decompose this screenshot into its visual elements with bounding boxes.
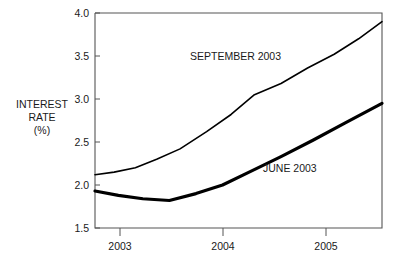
- data-series-group: [95, 22, 382, 201]
- x-tick-label-2003: 2003: [108, 240, 132, 252]
- series-label-september-2003: SEPTEMBER 2003: [190, 50, 281, 62]
- series-label-june-2003: JUNE 2003: [263, 162, 317, 174]
- y-axis-title-line-1: INTEREST: [16, 98, 69, 110]
- y-axis-title-line-3: (%): [34, 124, 50, 136]
- y-tick-label-2-0: 2.0: [74, 179, 89, 191]
- interest-rate-chart: 4.0 3.5 3.0 2.5 2.0 1.5 2003 2004 2005 I…: [0, 0, 396, 260]
- series-line-september-2003: [95, 22, 382, 175]
- y-tick-label-3-5: 3.5: [74, 50, 89, 62]
- x-axis-ticks: [120, 228, 326, 236]
- axis-frame-border: [95, 13, 382, 228]
- y-axis-tick-labels: 4.0 3.5 3.0 2.5 2.0 1.5: [74, 7, 89, 234]
- y-axis-ticks: [95, 13, 100, 228]
- y-tick-label-1-5: 1.5: [74, 222, 89, 234]
- plot-frame: [95, 13, 382, 228]
- y-tick-label-2-5: 2.5: [74, 136, 89, 148]
- series-line-june-2003: [95, 103, 382, 200]
- y-axis-title: INTEREST RATE (%): [16, 98, 69, 136]
- x-tick-label-2005: 2005: [314, 240, 338, 252]
- chart-canvas: 4.0 3.5 3.0 2.5 2.0 1.5 2003 2004 2005 I…: [0, 0, 396, 260]
- y-axis-title-line-2: RATE: [28, 111, 55, 123]
- y-tick-label-3-0: 3.0: [74, 93, 89, 105]
- y-tick-label-4-0: 4.0: [74, 7, 89, 19]
- series-annotations: SEPTEMBER 2003 JUNE 2003: [190, 50, 317, 174]
- x-tick-label-2004: 2004: [211, 240, 235, 252]
- x-axis-tick-labels: 2003 2004 2005: [108, 240, 338, 252]
